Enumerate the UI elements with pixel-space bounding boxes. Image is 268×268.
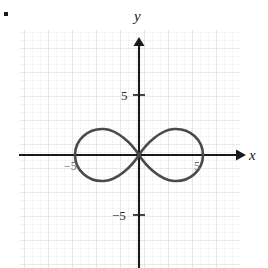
y-axis-label: y: [134, 9, 141, 24]
x-tick-label-5: 5: [194, 160, 200, 172]
grid-lines: [20, 30, 240, 268]
x-tick-label-neg5: −5: [64, 160, 77, 172]
y-tick-label-neg5: −5: [112, 209, 126, 222]
coordinate-plane-svg: [0, 0, 268, 268]
y-tick-label-5: 5: [121, 89, 128, 102]
graph-figure: y x 5 −5 −5 5: [0, 0, 268, 268]
x-axis-label: x: [249, 148, 256, 163]
